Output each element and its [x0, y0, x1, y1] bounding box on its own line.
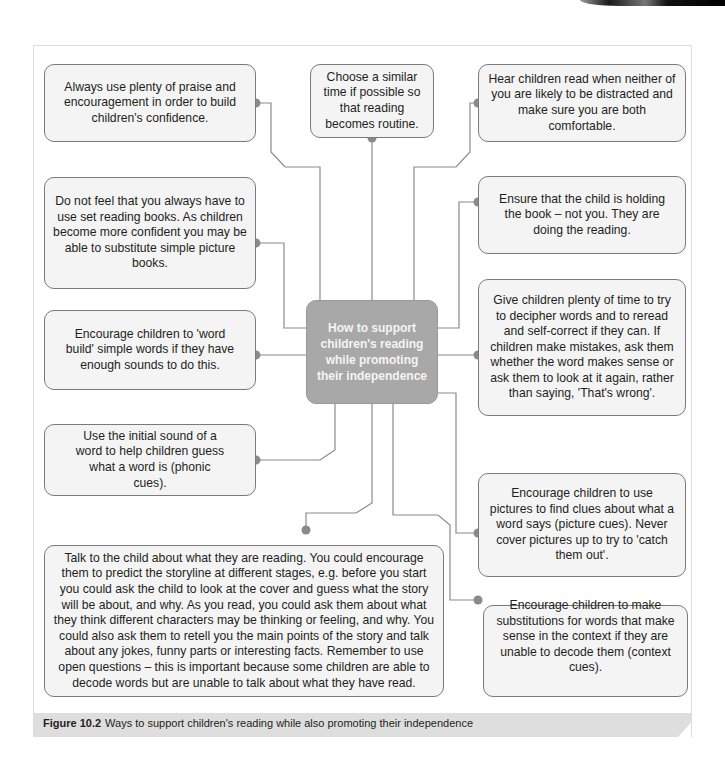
node-text: Ensure that the child is holding the boo… [491, 192, 673, 239]
node-word-build: Encourage children to 'word build' simpl… [44, 310, 256, 390]
node-set-books: Do not feel that you always have to use … [44, 177, 256, 289]
node-holding-book: Ensure that the child is holding the boo… [478, 176, 686, 254]
figure-caption: Figure 10.2Ways to support children's re… [33, 713, 692, 737]
node-praise: Always use plenty of praise and encourag… [44, 64, 256, 142]
node-time-to-decipher: Give children plenty of time to try to d… [478, 279, 686, 416]
node-text: Encourage children to use pictures to fi… [489, 486, 675, 564]
connector-dot [302, 526, 311, 535]
node-text: Give children plenty of time to try to d… [487, 293, 677, 402]
caption-text: Ways to support children's reading while… [105, 717, 473, 729]
node-similar-time: Choose a similar time if possible so tha… [310, 64, 434, 138]
center-title: How to support children's reading while … [315, 320, 429, 384]
node-text: Encourage children to 'word build' simpl… [59, 327, 241, 374]
node-text: Choose a similar time if possible so tha… [317, 70, 427, 132]
center-topic: How to support children's reading while … [306, 300, 438, 404]
node-not-distracted: Hear children read when neither of you a… [478, 64, 686, 142]
caption-label: Figure 10.2 [43, 717, 101, 729]
node-text: Hear children read when neither of you a… [487, 72, 677, 134]
node-talk-about-reading: Talk to the child about what they are re… [44, 545, 444, 697]
node-text: Always use plenty of praise and encourag… [55, 80, 245, 127]
node-initial-sound: Use the initial sound of a word to help … [44, 424, 256, 496]
connector-dot [474, 596, 483, 605]
node-picture-cues: Encourage children to use pictures to fi… [478, 473, 686, 577]
node-text: Talk to the child about what they are re… [53, 551, 435, 691]
node-context-cues: Encourage children to make substitutions… [483, 605, 688, 697]
node-text: Use the initial sound of a word to help … [75, 429, 225, 491]
node-text: Encourage children to make substitutions… [492, 598, 679, 692]
node-text: Do not feel that you always have to use … [53, 194, 247, 272]
